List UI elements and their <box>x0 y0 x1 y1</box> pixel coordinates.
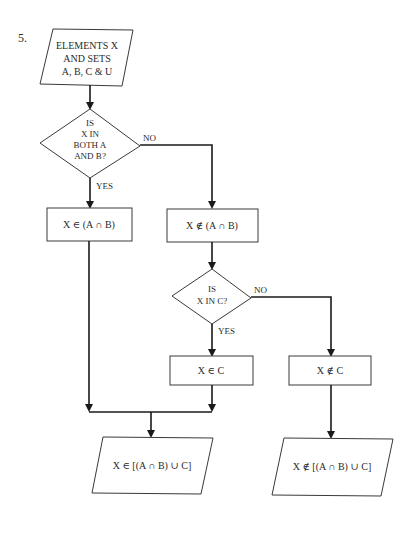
process-x-not-in-a-intersect-b: X ∉ (A ∩ B) <box>167 209 258 242</box>
process-not-in-ab-label: X ∉ (A ∩ B) <box>186 220 238 232</box>
arrowhead-icon <box>327 431 335 439</box>
arrowhead-icon <box>147 430 155 438</box>
process-in-ab-label: X ∈ (A ∩ B) <box>63 219 115 231</box>
connector-decision2-no <box>251 297 331 350</box>
decision2-line-2: X IN C? <box>197 296 228 306</box>
arrowhead-icon <box>208 404 216 412</box>
decision1-line-3: BOTH A <box>74 140 107 150</box>
process-not-in-c-label: X ∉ C <box>317 365 344 376</box>
output-x-not-in-union: X ∉ [(A ∩ B) ∪ C] <box>272 438 393 496</box>
decision2-no-label: NO <box>254 285 267 295</box>
arrowhead-icon <box>85 404 93 412</box>
start-input-node: ELEMENTS X AND SETS A, B, C & U <box>40 29 133 86</box>
decision1-line-2: X IN <box>81 129 100 139</box>
decision2-line-1: IS <box>208 284 216 294</box>
start-line-1: ELEMENTS X <box>56 40 119 51</box>
output-x-in-union: X ∈ [(A ∩ B) ∪ C] <box>92 437 213 494</box>
start-line-2: AND SETS <box>63 53 111 64</box>
decision1-no-label: NO <box>143 133 156 143</box>
decision-x-in-c: IS X IN C? <box>172 269 251 324</box>
figure-number: 5. <box>18 31 27 45</box>
decision1-line-4: AND B? <box>74 151 106 161</box>
decision2-yes-label: YES <box>218 326 235 336</box>
arrowhead-icon <box>208 201 216 209</box>
start-line-3: A, B, C & U <box>62 66 113 77</box>
connector-decision1-no <box>140 145 212 202</box>
output-not-in-label: X ∉ [(A ∩ B) ∪ C] <box>293 461 372 473</box>
decision1-yes-label: YES <box>96 181 113 191</box>
process-x-in-c: X ∈ C <box>170 356 253 385</box>
process-x-in-a-intersect-b: X ∈ (A ∩ B) <box>47 208 132 241</box>
decision1-line-1: IS <box>86 118 94 128</box>
flowchart: 5. ELEMENTS X AND SETS A, B, C & U IS X … <box>0 0 413 534</box>
process-in-c-label: X ∈ C <box>198 365 225 376</box>
decision-both-a-and-b: IS X IN BOTH A AND B? <box>40 109 140 178</box>
output-in-label: X ∈ [(A ∩ B) ∪ C] <box>113 460 192 472</box>
process-x-not-in-c: X ∉ C <box>289 356 371 385</box>
